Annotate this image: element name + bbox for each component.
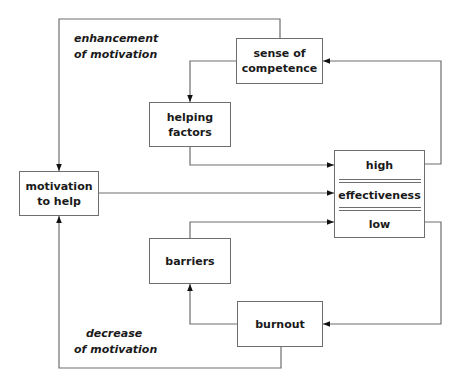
effectiveness-label: effectiveness	[338, 188, 420, 203]
decrease-line2: of motivation	[74, 343, 157, 356]
effectiveness-low-row: low	[335, 211, 424, 237]
competence-to-helping-arrow	[190, 61, 236, 102]
helping-factors-line1: helping	[167, 110, 213, 125]
barriers-box: barriers	[149, 238, 231, 284]
motivation-line1: motivation	[25, 179, 92, 194]
sense-of-competence-line2: competence	[242, 61, 317, 76]
helping-factors-box: helping factors	[149, 102, 231, 147]
effectiveness-high-row: high	[335, 151, 424, 179]
barriers-label: barriers	[165, 254, 214, 269]
helping-factors-line2: factors	[168, 125, 212, 140]
effectiveness-middle-row: effectiveness	[335, 183, 424, 207]
enhancement-line1: enhancement	[74, 32, 158, 45]
burnout-box: burnout	[237, 301, 323, 347]
helping-to-effectiveness-arrow	[190, 147, 334, 165]
enhancement-label: enhancement of motivation	[74, 31, 158, 63]
sense-of-competence-line1: sense of	[253, 46, 305, 61]
high-to-competence-arrow	[323, 61, 441, 164]
motivation-to-help-box: motivation to help	[19, 171, 99, 216]
motivation-effectiveness-diagram: enhancement of motivation decrease of mo…	[0, 0, 461, 382]
decrease-line1: decrease	[74, 327, 142, 340]
barriers-to-effectiveness-arrow	[190, 222, 334, 238]
effectiveness-low: low	[369, 217, 391, 232]
effectiveness-high: high	[366, 158, 393, 173]
enhancement-line2: of motivation	[74, 48, 157, 61]
decrease-label: decrease of motivation	[74, 326, 157, 358]
sense-of-competence-box: sense of competence	[236, 38, 323, 84]
burnout-label: burnout	[255, 317, 305, 332]
motivation-line2: to help	[37, 194, 81, 209]
effectiveness-box: high effectiveness low	[334, 150, 425, 238]
burnout-to-barriers-arrow	[190, 284, 237, 324]
